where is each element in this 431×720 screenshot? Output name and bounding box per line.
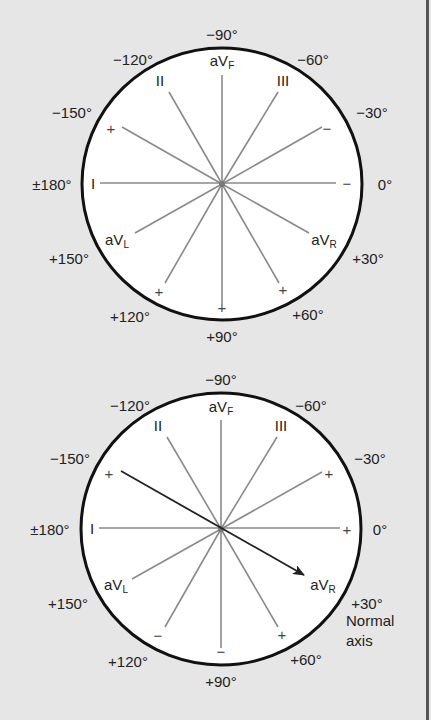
degree-label: −60°: [297, 51, 328, 68]
lead-label: II: [154, 417, 162, 434]
degree-label: +120°: [110, 308, 150, 325]
polarity-sign: −: [343, 175, 352, 192]
degree-label: −60°: [295, 397, 326, 414]
polarity-sign: −: [217, 643, 226, 660]
degree-label: +120°: [108, 653, 148, 670]
degree-label: −30°: [356, 104, 387, 121]
polarity-sign: +: [155, 283, 164, 300]
degree-label: −120°: [113, 51, 153, 68]
degree-label: +150°: [48, 595, 88, 612]
lead-label: I: [90, 520, 94, 537]
degree-label: −30°: [354, 450, 385, 467]
degree-label: +30°: [352, 250, 383, 267]
degree-label: −90°: [205, 371, 236, 388]
polarity-sign: +: [325, 465, 334, 482]
degree-label: +60°: [290, 651, 321, 668]
center-point: [219, 181, 225, 187]
degree-label: 0°: [373, 521, 387, 538]
degree-label: −150°: [50, 450, 90, 467]
diagram-hexaxial-reference: −90°−120°−60°−150°−30°±180°0°+150°+30°+1…: [32, 26, 392, 345]
degree-label: 0°: [378, 176, 392, 193]
normal-axis-caption: axis: [346, 632, 373, 649]
degree-label: +30°: [351, 595, 382, 612]
degree-label: +90°: [206, 328, 237, 345]
lead-label: I: [91, 175, 95, 192]
polarity-sign: −: [154, 627, 163, 644]
normal-axis-caption: Normal: [346, 612, 394, 629]
degree-label: +150°: [49, 250, 89, 267]
degree-label: +90°: [205, 673, 236, 690]
degree-label: −90°: [206, 26, 237, 43]
degree-label: −150°: [52, 104, 92, 121]
figure-right-border: [426, 0, 429, 720]
lead-label: III: [275, 417, 288, 434]
hexaxial-diagrams: −90°−120°−60°−150°−30°±180°0°+150°+30°+1…: [0, 0, 431, 720]
polarity-sign: −: [323, 120, 332, 137]
lead-label: III: [277, 72, 290, 89]
lead-label: II: [156, 72, 164, 89]
degree-label: ±180°: [32, 176, 71, 193]
degree-label: +60°: [292, 306, 323, 323]
polarity-sign: +: [278, 626, 287, 643]
polarity-sign: +: [343, 521, 352, 538]
polarity-sign: +: [279, 281, 288, 298]
polarity-sign: +: [218, 299, 227, 316]
hexaxial-reference-figure: −90°−120°−60°−150°−30°±180°0°+150°+30°+1…: [0, 0, 431, 720]
degree-label: ±180°: [30, 521, 69, 538]
degree-label: −120°: [110, 397, 150, 414]
polarity-sign: +: [105, 465, 114, 482]
polarity-sign: +: [107, 120, 116, 137]
diagram-normal-axis: −90°−120°−60°−150°−30°±180°0°+150°+30°+1…: [30, 371, 394, 690]
